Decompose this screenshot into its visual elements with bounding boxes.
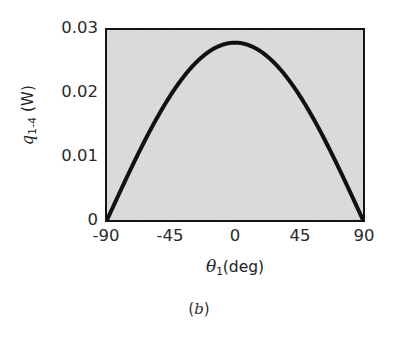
curve-path bbox=[107, 43, 363, 220]
x-axis-subscript: 1 bbox=[216, 265, 223, 277]
figure-panel-b: q1-4 (W) 0.03 0.02 0.01 0 bbox=[0, 0, 398, 341]
x-tick-label: 0 bbox=[200, 226, 270, 246]
y-tick-label: 0.01 bbox=[36, 148, 98, 164]
x-axis-title: θ1(deg) bbox=[105, 256, 365, 277]
plot-area bbox=[105, 28, 365, 222]
x-axis-unit: (deg) bbox=[223, 258, 264, 276]
x-tick-label: -90 bbox=[71, 226, 141, 246]
y-axis-tick-labels: 0.03 0.02 0.01 0 bbox=[36, 0, 98, 341]
data-curve bbox=[107, 30, 363, 220]
y-tick-label: 0.03 bbox=[36, 20, 98, 36]
y-axis-unit bbox=[19, 112, 37, 117]
y-axis-title: q1-4 (W) bbox=[18, 55, 38, 175]
y-axis-unit-text: (W) bbox=[19, 85, 37, 112]
y-axis-symbol: q bbox=[18, 135, 37, 145]
figure-caption: (b) bbox=[0, 300, 398, 318]
x-axis-tick-labels: -90 -45 0 45 90 bbox=[105, 226, 365, 252]
x-tick-label: 90 bbox=[329, 226, 398, 246]
y-tick-label: 0.02 bbox=[36, 84, 98, 100]
caption-letter: b bbox=[194, 300, 204, 318]
caption-close-paren: ) bbox=[204, 300, 210, 318]
x-axis-symbol: θ bbox=[206, 256, 216, 276]
x-tick-label: -45 bbox=[135, 226, 205, 246]
x-tick-label: 45 bbox=[265, 226, 335, 246]
